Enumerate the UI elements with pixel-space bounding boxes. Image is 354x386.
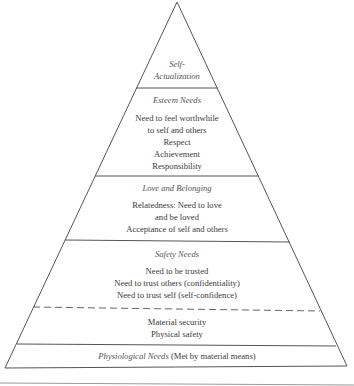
level-item: Physical safety (0, 328, 354, 340)
level-title-suffix: (Met by material means) (169, 351, 256, 361)
level-title: Esteem Needs (0, 94, 354, 106)
divider-safety-physio (17, 344, 336, 346)
level-safety: Safety Needs Need to be trusted Need to … (0, 248, 354, 301)
level-title-cont: Actualization (0, 70, 354, 82)
level-self-actualization: Self- Actualization (0, 58, 354, 82)
level-title: Physiological Needs (98, 351, 168, 361)
level-safety-material: Material security Physical safety (0, 316, 354, 340)
level-item: Material security (0, 316, 354, 328)
level-item: Need to trust self (self-confidence) (0, 289, 354, 301)
level-item: Need to be trusted (0, 265, 354, 277)
level-item: to self and others (0, 124, 354, 136)
divider-safety-dashed (33, 307, 320, 311)
level-item: Responsibility (0, 160, 354, 172)
level-item: Respect (0, 136, 354, 148)
level-physiological: Physiological Needs (Met by material mea… (0, 350, 354, 362)
page-rule (0, 383, 354, 385)
level-title: Safety Needs (0, 248, 354, 260)
level-item: Relatedness: Need to love (0, 199, 354, 211)
level-love-belonging: Love and Belonging Relatedness: Need to … (0, 182, 354, 235)
level-item: and be loved (0, 211, 354, 223)
level-item: Achievement (0, 148, 354, 160)
level-esteem: Esteem Needs Need to feel worthwhile to … (0, 94, 354, 172)
level-item: Acceptance of self and others (0, 223, 354, 235)
level-item: Need to trust others (confidentiality) (0, 277, 354, 289)
level-title: Love and Belonging (0, 182, 354, 194)
level-item: Need to feel worthwhile (0, 112, 354, 124)
level-title: Self- (0, 58, 354, 70)
divider-love-safety (65, 240, 290, 242)
